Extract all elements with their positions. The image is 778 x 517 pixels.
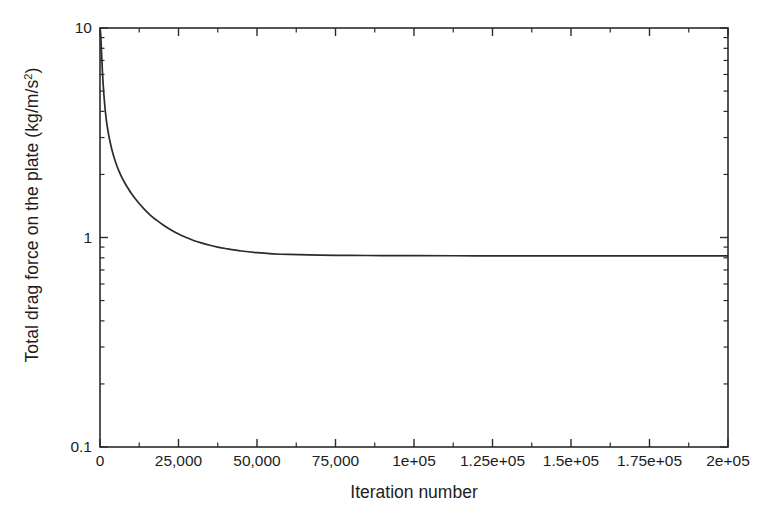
- x-axis-tick-label: 75,000: [312, 452, 359, 470]
- axis-ticks: [100, 28, 728, 447]
- x-axis-tick-label: 1.5e+05: [543, 452, 599, 470]
- y-axis-tick-label: 1: [83, 229, 92, 247]
- data-series-group: [100, 28, 728, 256]
- chart-figure: Total drag force on the plate (kg/m/s2) …: [0, 0, 778, 517]
- x-axis-tick-label: 1.75e+05: [617, 452, 682, 470]
- x-axis-tick-label: 0: [96, 452, 105, 470]
- y-axis-tick-label: 0.1: [70, 438, 92, 456]
- x-axis-title: Iteration number: [100, 482, 728, 503]
- y-axis-tick-label: 10: [75, 19, 92, 37]
- x-axis-tick-label: 2e+05: [706, 452, 750, 470]
- y-axis-tick-labels: 0.1110: [0, 0, 92, 517]
- x-axis-tick-label: 50,000: [233, 452, 280, 470]
- x-axis-tick-label: 1.25e+05: [460, 452, 525, 470]
- plot-area: [0, 0, 778, 517]
- axes-frame: [100, 28, 728, 447]
- x-axis-tick-label: 1e+05: [392, 452, 436, 470]
- x-axis-tick-label: 25,000: [155, 452, 202, 470]
